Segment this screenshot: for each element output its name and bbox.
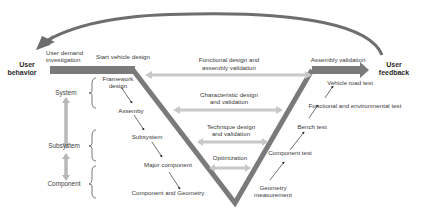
center-link-optimization: Optimization xyxy=(213,154,248,161)
v-model-diagram: User behavior User feedback User demand … xyxy=(0,0,432,216)
left-item-subsystem: Subsystem xyxy=(132,133,163,140)
start-vehicle-design-label: Start vehicle design xyxy=(96,53,151,60)
user-feedback-label-line1: User xyxy=(386,61,402,68)
level-component: Component xyxy=(47,180,80,188)
left-item-framework-line2: design xyxy=(109,82,128,89)
assembly-validation-label: Assembly validation xyxy=(311,56,366,63)
left-item-component-geometry: Component and Geometry xyxy=(132,189,206,196)
center-link-characteristic-line1: Characteristic design xyxy=(200,91,258,98)
left-item-assemby: Assemby xyxy=(118,107,144,114)
feedback-loop-arrow xyxy=(36,14,382,55)
level-braces xyxy=(89,78,96,198)
right-item-vehicle-road-test: Vehicle road test xyxy=(327,79,373,86)
center-link-functional-line2: assembly validation xyxy=(202,64,257,71)
user-feedback-label-line2: feedback xyxy=(379,69,409,76)
right-item-bench-test: Bench test xyxy=(297,123,327,130)
center-link-technique-line2: and validation xyxy=(212,130,251,137)
validation-end-arrow xyxy=(312,62,369,78)
right-item-functional-environmental-test: Functional and environmental test xyxy=(309,102,402,109)
user-behavior-label-line1: User xyxy=(19,61,35,68)
right-item-geometry-line2: measurement xyxy=(254,191,292,198)
user-demand-label-line2: investigation xyxy=(46,56,81,63)
right-branch-pointers xyxy=(270,86,333,180)
user-demand-label-line1: User demand xyxy=(46,49,84,56)
left-item-major-component: Major component xyxy=(144,161,192,168)
level-system: System xyxy=(55,89,76,97)
design-start-bar xyxy=(50,66,135,74)
center-link-technique-line1: Technique design xyxy=(207,123,256,130)
right-item-geometry-line1: Geometry xyxy=(259,184,287,191)
center-link-functional-line1: Functional design and xyxy=(199,56,260,63)
right-item-component-test: Component test xyxy=(268,149,312,156)
left-item-framework-line1: Framework xyxy=(103,75,135,82)
user-behavior-label-line2: behavior xyxy=(7,69,36,76)
level-arrows xyxy=(62,97,70,181)
level-subsystem: Subsystem xyxy=(48,142,80,150)
center-link-characteristic-line2: and validation xyxy=(210,98,249,105)
